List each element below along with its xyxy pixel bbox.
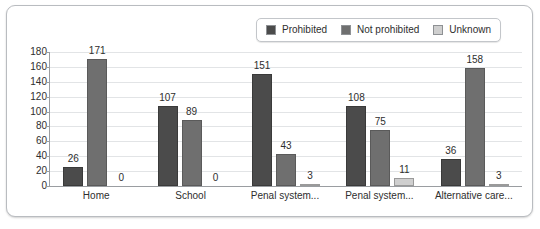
x-tick-label: School [143, 190, 237, 202]
bar[interactable] [346, 106, 366, 186]
bar-group: 151433 [239, 52, 333, 186]
bar-group: 107890 [144, 52, 238, 186]
bar-value-label: 43 [270, 141, 302, 151]
bar-value-label: 0 [105, 173, 137, 183]
bar[interactable] [489, 184, 509, 186]
bar-group: 361583 [428, 52, 522, 186]
bar[interactable] [300, 184, 320, 186]
x-tick-label: Home [49, 190, 143, 202]
chart-legend: ProhibitedNot prohibitedUnknown [256, 18, 501, 42]
bar-value-label: 0 [200, 173, 232, 183]
y-tick-label: 180 [13, 47, 47, 57]
bar[interactable] [370, 130, 390, 186]
y-tick-label: 160 [13, 62, 47, 72]
bar[interactable] [63, 167, 83, 186]
bar-value-label: 11 [388, 165, 420, 175]
y-axis: 020406080100120140160180 [13, 52, 47, 186]
legend-swatch-icon [433, 25, 443, 35]
y-tick-label: 60 [13, 136, 47, 146]
legend-item-prohibited[interactable]: Prohibited [266, 25, 327, 35]
bar-value-label: 75 [364, 117, 396, 127]
bar-value-label: 107 [152, 93, 184, 103]
legend-item-not-prohibited[interactable]: Not prohibited [341, 25, 419, 35]
y-tick-mark [46, 186, 50, 187]
y-tick-label: 0 [13, 181, 47, 191]
bar[interactable] [441, 159, 461, 186]
x-tick-label: Alternative care... [427, 190, 521, 202]
chart-frame: 020406080100120140160180 261710107890151… [6, 5, 533, 217]
bar-value-label: 151 [246, 61, 278, 71]
bar-value-label: 3 [294, 171, 326, 181]
bar-value-label: 158 [459, 55, 491, 65]
bar-group: 1087511 [333, 52, 427, 186]
bar[interactable] [276, 154, 296, 186]
bar-value-label: 36 [435, 146, 467, 156]
bar-value-label: 26 [57, 154, 89, 164]
y-tick-label: 140 [13, 77, 47, 87]
bar[interactable] [465, 68, 485, 186]
y-tick-label: 120 [13, 92, 47, 102]
bar[interactable] [252, 74, 272, 186]
y-tick-label: 20 [13, 166, 47, 176]
legend-item-label: Not prohibited [357, 25, 419, 35]
x-axis: HomeSchoolPenal system...Penal system...… [49, 190, 521, 206]
y-tick-label: 80 [13, 121, 47, 131]
plot-area: 2617101078901514331087511361583 [49, 52, 522, 187]
legend-item-label: Prohibited [282, 25, 327, 35]
bar-value-label: 171 [81, 46, 113, 56]
legend-swatch-icon [341, 25, 351, 35]
y-tick-label: 100 [13, 107, 47, 117]
bar-value-label: 108 [340, 93, 372, 103]
legend-swatch-icon [266, 25, 276, 35]
bar[interactable] [394, 178, 414, 186]
bar-value-label: 89 [176, 107, 208, 117]
legend-item-unknown[interactable]: Unknown [433, 25, 491, 35]
y-tick-label: 40 [13, 151, 47, 161]
bar[interactable] [158, 106, 178, 186]
legend-item-label: Unknown [449, 25, 491, 35]
bar[interactable] [87, 59, 107, 186]
bar-value-label: 3 [483, 171, 515, 181]
x-tick-label: Penal system... [332, 190, 426, 202]
x-tick-label: Penal system... [238, 190, 332, 202]
bar[interactable] [182, 120, 202, 186]
bar-group: 261710 [50, 52, 144, 186]
